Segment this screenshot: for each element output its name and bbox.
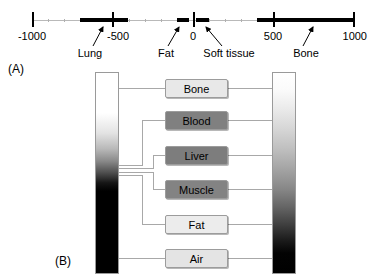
connector-left-blood-c (142, 120, 165, 121)
connector-left-muscle-c (153, 189, 165, 190)
gradient-bar-right (272, 72, 296, 274)
tissue-box-label: Muscle (179, 184, 214, 196)
connector-left-blood-a (119, 165, 143, 166)
tissue-box-label: Liver (185, 150, 209, 162)
connector-left-muscle-b (153, 172, 154, 189)
tissue-box-air[interactable]: Air (165, 249, 228, 268)
connector-right-liver (228, 155, 272, 156)
gradient-bar-left (95, 72, 119, 274)
connector-right-muscle (228, 189, 272, 190)
connector-right-blood (228, 120, 272, 121)
range-label-fat: Fat (140, 47, 192, 59)
figure-root: -1000 -500 0 500 1000 (0, 0, 371, 278)
connector-right-air (228, 258, 272, 259)
tissue-box-label: Bone (184, 83, 210, 95)
tissue-box-bone[interactable]: Bone (165, 79, 228, 98)
connector-left-blood-b (142, 120, 143, 166)
tissue-box-fat[interactable]: Fat (165, 215, 228, 234)
connector-left-liver-b (153, 155, 154, 169)
connector-left-liver-c (153, 155, 165, 156)
panel-a-hounsfield-scale: -1000 -500 0 500 1000 (0, 0, 371, 68)
panel-b-window-mapping: Bone Blood Liver Muscle Fat Air (B) (0, 68, 371, 278)
tissue-box-liver[interactable]: Liver (165, 146, 228, 165)
tissue-box-muscle[interactable]: Muscle (165, 180, 228, 199)
tissue-box-blood[interactable]: Blood (165, 111, 228, 130)
range-label-soft-tissue: Soft tissue (195, 47, 263, 59)
connector-left-fat-c (142, 224, 165, 225)
connector-right-bone (228, 88, 272, 89)
connector-left-air (119, 258, 165, 259)
tissue-box-label: Blood (182, 115, 210, 127)
connector-left-muscle-a (119, 172, 154, 173)
connector-left-liver-a (119, 168, 154, 169)
connector-left-fat-b (142, 175, 143, 224)
tissue-box-label: Fat (189, 219, 205, 231)
panel-b-tag: (B) (55, 254, 71, 268)
connector-left-fat-a (119, 175, 143, 176)
range-label-lung: Lung (60, 47, 120, 59)
connector-right-fat (228, 224, 272, 225)
tissue-box-label: Air (190, 253, 203, 265)
range-label-bone: Bone (280, 47, 332, 59)
connector-left-bone (119, 88, 165, 89)
